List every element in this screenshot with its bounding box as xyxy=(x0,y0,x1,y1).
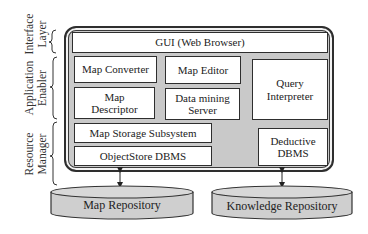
knowledge-repository-label: Knowledge Repository xyxy=(212,199,352,214)
map-repository-label: Map Repository xyxy=(51,198,193,213)
